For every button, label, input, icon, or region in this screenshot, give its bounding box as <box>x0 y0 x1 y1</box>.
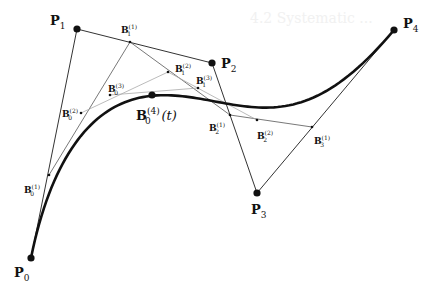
intermediate-point-b0-2 <box>80 112 83 115</box>
label-b3-1: B(1)3 <box>314 134 330 148</box>
curve-point-b0-4 <box>148 91 155 98</box>
label-b2-2: B(2)2 <box>257 129 273 143</box>
label-p0: P0 <box>14 265 30 283</box>
intermediate-point-b2-2 <box>256 119 259 122</box>
label-b0-2: B(2)0 <box>62 107 78 121</box>
point-labels: P0P1P2P3P4B(1)0B(1)1B(1)2B(1)3B(2)0B(2)1… <box>14 13 419 283</box>
label-b0-4-t: B(4)0(t) <box>136 106 177 126</box>
control-point-p2 <box>208 59 215 66</box>
control-point-p1 <box>73 25 80 32</box>
intermediate-point-b0-1 <box>48 174 51 177</box>
label-b0-1: B(1)0 <box>24 183 40 197</box>
intermediate-point-b0-3 <box>109 94 112 97</box>
level1-segment <box>230 115 312 127</box>
label-b1-1: B(1)1 <box>121 23 137 37</box>
control-point-p4 <box>390 26 397 33</box>
label-b1-3: B(3)1 <box>196 74 212 88</box>
label-p2: P2 <box>221 56 237 74</box>
polygon-segment <box>77 29 212 63</box>
intermediate-point-b3-1 <box>311 126 314 129</box>
intermediate-point-b2-1 <box>229 114 232 117</box>
control-point-p3 <box>253 189 260 196</box>
control-point-p0 <box>27 254 34 261</box>
intermediate-point-b1-3 <box>197 87 200 90</box>
label-b2-1: B(1)2 <box>209 121 225 135</box>
intermediate-point-b1-1 <box>129 41 132 44</box>
label-p1: P1 <box>50 13 66 31</box>
label-p4: P4 <box>403 16 419 34</box>
point-markers <box>27 25 397 261</box>
label-b1-2: B(2)1 <box>175 62 191 76</box>
label-p3: P3 <box>251 202 267 220</box>
intermediate-point-b1-2 <box>167 71 170 74</box>
bezier-diagram: P0P1P2P3P4B(1)0B(1)1B(1)2B(1)3B(2)0B(2)1… <box>0 0 429 286</box>
